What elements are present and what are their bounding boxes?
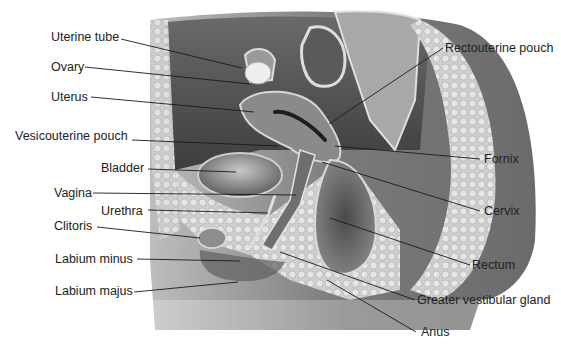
label-vagina: Vagina [54,186,92,200]
label-uterine-tube: Uterine tube [51,30,119,44]
ovary-shape [245,62,271,84]
label-anus: Anus [421,325,450,339]
label-fornix: Fornix [484,152,519,166]
label-labium-majus: Labium majus [55,284,133,298]
label-cervix: Cervix [484,204,519,218]
label-uterus: Uterus [51,90,88,104]
label-labium-minus: Labium minus [55,252,133,266]
label-rectouterine-pouch: Rectouterine pouch [445,41,553,55]
label-urethra: Urethra [101,204,143,218]
label-greater-vestibular-gland: Greater vestibular gland [417,293,550,307]
label-clitoris: Clitoris [54,219,92,233]
label-ovary: Ovary [51,60,84,74]
label-rectum: Rectum [472,258,515,272]
bladder-shape [198,153,282,197]
pelvis-diagram: Uterine tube Ovary Uterus Vesicouterine … [0,0,561,355]
label-vesicouterine-pouch: Vesicouterine pouch [15,129,128,143]
label-bladder: Bladder [101,161,144,175]
clitoris-shape [198,228,226,248]
